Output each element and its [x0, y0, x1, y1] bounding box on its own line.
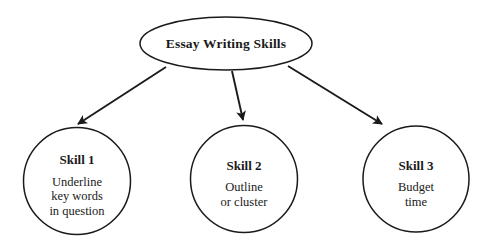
root-node-ellipse — [140, 17, 312, 70]
branch-node-skill-3 — [363, 126, 469, 232]
connector-root-to-skill-2 — [232, 71, 243, 120]
branch-node-skill-2 — [191, 126, 298, 233]
connector-root-to-skill-1 — [78, 67, 166, 124]
connector-root-to-skill-3 — [288, 66, 382, 124]
essay-writing-skills-diagram: Essay Writing Skills Skill 1 Underline k… — [0, 0, 492, 248]
branch-node-skill-1 — [24, 128, 131, 235]
diagram-canvas — [0, 0, 492, 248]
